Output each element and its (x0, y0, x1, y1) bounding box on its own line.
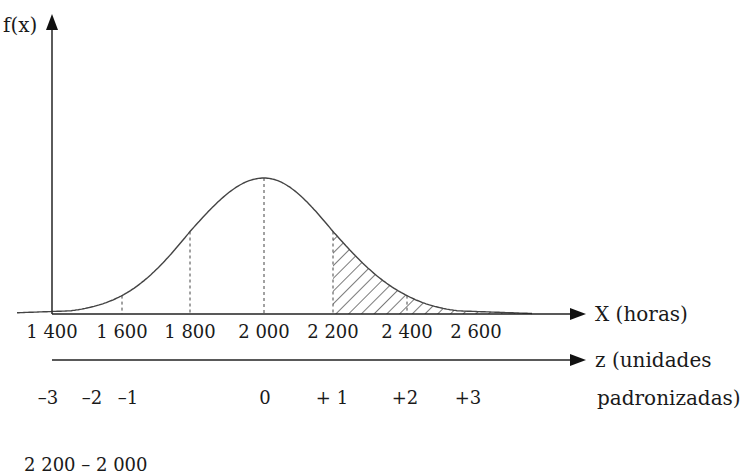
x-tick-label: 2 200 (307, 323, 359, 341)
z-axis-label-line1: z (unidades (595, 350, 711, 370)
z-axis-label-line2: padronizadas) (597, 388, 741, 408)
z-tick-label: +2 (392, 389, 419, 407)
z-axis-arrow-icon (570, 354, 586, 366)
z-tick-label: + 1 (316, 389, 348, 407)
y-axis-label: f(x) (3, 15, 37, 35)
normal-density-curve (17, 178, 532, 314)
x-axis-arrow-icon (570, 308, 586, 320)
x-tick-label: 2 000 (238, 323, 290, 341)
z-tick-label: 0 (259, 389, 270, 407)
x-tick-label: 2 600 (450, 323, 502, 341)
z-tick-label: +3 (455, 389, 482, 407)
shaded-tail-area (331, 230, 532, 315)
x-tick-label: 1 600 (96, 323, 148, 341)
x-axis-label: X (horas) (595, 304, 688, 324)
x-tick-label: 2 400 (381, 323, 433, 341)
z-tick-label: –1 (118, 389, 138, 407)
x-tick-label: 1 800 (164, 323, 216, 341)
z-tick-label: –2 (82, 389, 102, 407)
z-tick-label: –3 (38, 389, 58, 407)
footer-formula: 2 200 – 2 000 (24, 456, 148, 474)
y-axis-arrow-icon (46, 14, 58, 30)
x-tick-label: 1 400 (26, 323, 78, 341)
